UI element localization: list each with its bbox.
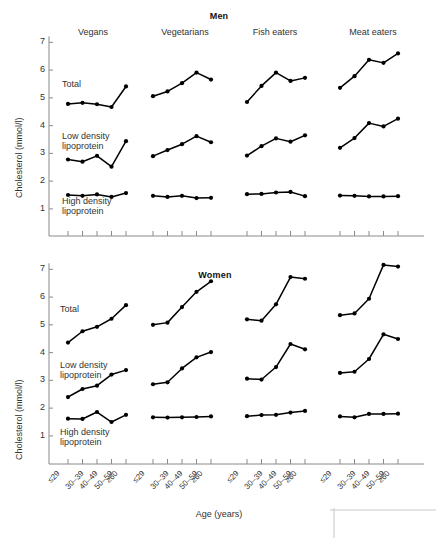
data-point xyxy=(180,415,184,419)
data-point xyxy=(124,413,128,417)
data-point xyxy=(109,195,113,199)
y-tick-label: 3 xyxy=(31,147,45,157)
data-point xyxy=(165,380,169,384)
data-point xyxy=(151,94,155,98)
data-line xyxy=(247,73,305,102)
data-point xyxy=(124,368,128,372)
data-point xyxy=(274,70,278,74)
data-point xyxy=(396,337,400,341)
data-point xyxy=(209,350,213,354)
data-point xyxy=(180,305,184,309)
data-point xyxy=(209,140,213,144)
y-tick-label: 1 xyxy=(31,430,45,440)
data-point xyxy=(80,329,84,333)
y-tick-label: 2 xyxy=(31,402,45,412)
data-point xyxy=(381,263,385,267)
data-point xyxy=(209,77,213,81)
data-point xyxy=(151,323,155,327)
data-point xyxy=(352,74,356,78)
data-point xyxy=(245,192,249,196)
data-point xyxy=(352,415,356,419)
data-point xyxy=(124,303,128,307)
data-point xyxy=(95,102,99,106)
data-point xyxy=(165,195,169,199)
data-point xyxy=(80,417,84,421)
y-tick-label: 5 xyxy=(31,319,45,329)
data-point xyxy=(165,89,169,93)
data-line xyxy=(153,281,211,325)
data-point xyxy=(381,124,385,128)
data-point xyxy=(194,355,198,359)
data-point xyxy=(338,414,342,418)
y-tick-label: 6 xyxy=(31,64,45,74)
data-point xyxy=(352,311,356,315)
data-line xyxy=(68,305,126,342)
data-point xyxy=(274,365,278,369)
data-point xyxy=(151,382,155,386)
data-point xyxy=(165,415,169,419)
data-point xyxy=(381,194,385,198)
data-point xyxy=(396,412,400,416)
data-point xyxy=(274,136,278,140)
data-point xyxy=(124,139,128,143)
data-point xyxy=(194,415,198,419)
data-point xyxy=(109,105,113,109)
data-point xyxy=(259,144,263,148)
data-point xyxy=(194,70,198,74)
y-tick-label: 1 xyxy=(31,203,45,213)
chart-panel-men: Men Vegans Vegetarians Fish eaters Meat … xyxy=(0,0,438,268)
data-point xyxy=(151,194,155,198)
data-point xyxy=(338,313,342,317)
data-point xyxy=(396,117,400,121)
data-point xyxy=(66,193,70,197)
data-point xyxy=(124,84,128,88)
data-point xyxy=(288,79,292,83)
data-point xyxy=(381,332,385,336)
data-point xyxy=(180,81,184,85)
data-point xyxy=(80,160,84,164)
data-point xyxy=(151,415,155,419)
data-point xyxy=(303,133,307,137)
data-point xyxy=(352,136,356,140)
data-point xyxy=(245,377,249,381)
scan-artifact xyxy=(328,494,438,538)
data-point xyxy=(180,194,184,198)
data-point xyxy=(259,413,263,417)
data-point xyxy=(288,275,292,279)
y-tick-label: 3 xyxy=(31,374,45,384)
data-point xyxy=(95,410,99,414)
data-point xyxy=(367,357,371,361)
data-point xyxy=(274,190,278,194)
data-point xyxy=(209,196,213,200)
data-point xyxy=(367,297,371,301)
data-point xyxy=(66,157,70,161)
data-point xyxy=(209,414,213,418)
chart-svg-men xyxy=(0,0,438,268)
data-point xyxy=(338,86,342,90)
data-point xyxy=(288,410,292,414)
data-point xyxy=(288,190,292,194)
data-point xyxy=(367,194,371,198)
data-point xyxy=(95,154,99,158)
data-point xyxy=(109,165,113,169)
data-point xyxy=(303,76,307,80)
data-point xyxy=(194,290,198,294)
data-point xyxy=(338,193,342,197)
y-tick-label: 7 xyxy=(31,263,45,273)
data-point xyxy=(209,279,213,283)
data-point xyxy=(245,100,249,104)
y-tick-label: 2 xyxy=(31,175,45,185)
data-point xyxy=(352,370,356,374)
data-point xyxy=(259,192,263,196)
data-point xyxy=(109,317,113,321)
y-tick-label: 5 xyxy=(31,92,45,102)
data-point xyxy=(288,342,292,346)
data-point xyxy=(381,61,385,65)
data-point xyxy=(151,154,155,158)
y-tick-label: 7 xyxy=(31,36,45,46)
data-point xyxy=(165,321,169,325)
data-point xyxy=(367,121,371,125)
y-tick-label: 6 xyxy=(31,291,45,301)
data-point xyxy=(259,319,263,323)
data-point xyxy=(194,134,198,138)
